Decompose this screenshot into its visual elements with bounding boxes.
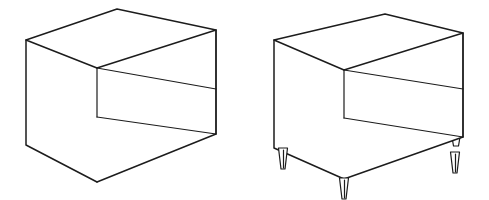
- figure-svg: [0, 0, 489, 200]
- figure-open-box-with-legs: [274, 14, 463, 199]
- box-body-fill: [274, 14, 463, 179]
- figure-open-box-no-legs: [26, 9, 216, 182]
- box-body-fill: [26, 9, 216, 182]
- drawing-canvas: [0, 0, 489, 200]
